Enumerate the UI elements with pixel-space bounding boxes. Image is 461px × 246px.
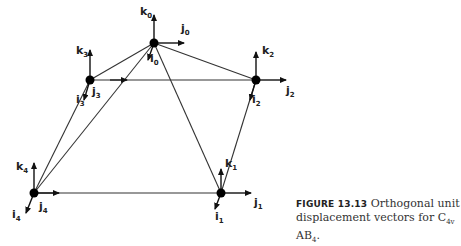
atom-0 (150, 39, 159, 48)
caption-suffix: . (317, 229, 321, 242)
label-i-4: i4 (12, 208, 21, 223)
label-k-1: k1 (225, 157, 237, 172)
atom-3 (86, 76, 95, 85)
label-k-4: k4 (16, 160, 28, 175)
atom-4 (30, 189, 39, 198)
atom-2 (252, 76, 261, 85)
edge-0-1 (154, 43, 221, 193)
atoms (30, 39, 261, 198)
figure-caption: FIGURE 13.13 Orthogonal unit displacemen… (296, 197, 461, 246)
caption-ab: AB (296, 229, 312, 242)
edge-0-3 (90, 43, 154, 80)
label-i-0: i0 (150, 52, 159, 67)
figure-number: FIGURE 13.13 (296, 199, 367, 209)
label-j-4: j4 (38, 200, 48, 215)
edge-0-2 (154, 43, 256, 80)
label-i-1: i1 (215, 210, 224, 225)
label-k-3: k3 (76, 44, 88, 59)
caption-line1: Orthogonal unit (371, 197, 460, 210)
label-j-2: j2 (285, 84, 295, 99)
caption-line2: displacement vectors for C (296, 211, 446, 224)
atom-1 (217, 189, 226, 198)
edge-3-4 (34, 80, 90, 193)
label-j-3: j3 (91, 85, 101, 100)
c-subscript: 4v (446, 218, 454, 226)
edges (34, 43, 256, 193)
label-j-0: j0 (180, 22, 190, 37)
label-k-0: k0 (140, 5, 152, 20)
label-k-2: k2 (262, 44, 274, 59)
label-j-1: j1 (253, 196, 263, 211)
edge-0-4 (34, 43, 154, 193)
label-i-2: i2 (252, 93, 261, 108)
label-i-3: i3 (76, 93, 85, 108)
